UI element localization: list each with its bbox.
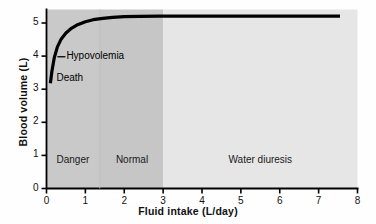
x-tick-label: 4 <box>182 195 222 206</box>
chart-canvas <box>0 0 376 224</box>
annotation-label-hypovolemia: Hypovolemia <box>66 50 124 61</box>
x-tick-label: 6 <box>260 195 300 206</box>
x-tick-label: 8 <box>338 195 376 206</box>
x-tick-label: 3 <box>143 195 183 206</box>
y-tick-label: 2 <box>15 115 39 126</box>
x-tick-label: 5 <box>221 195 261 206</box>
region-label-water-diuresis: Water diuresis <box>218 154 302 165</box>
y-tick-label: 5 <box>15 16 39 27</box>
x-tick-label: 2 <box>104 195 144 206</box>
x-axis-title: Fluid intake (L/day) <box>0 205 376 217</box>
y-tick-label: 3 <box>15 82 39 93</box>
x-tick-label: 0 <box>27 195 67 206</box>
y-tick-label: 0 <box>15 182 39 193</box>
y-tick-label: 4 <box>15 49 39 60</box>
blood-volume-vs-fluid-intake-chart: Blood volume (L) Fluid intake (L/day) 01… <box>0 0 376 224</box>
x-tick-label: 1 <box>65 195 105 206</box>
region-label-normal: Normal <box>90 154 174 165</box>
annotation-label-death: Death <box>56 72 83 83</box>
x-tick-label: 7 <box>299 195 339 206</box>
